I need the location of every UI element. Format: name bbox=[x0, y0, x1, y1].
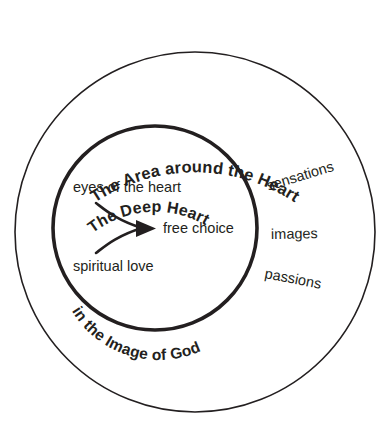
label-spiritual-love: spiritual love bbox=[73, 259, 154, 274]
diagram-svg: The Area around the Heart The Deep Heart… bbox=[0, 0, 391, 437]
label-images: images bbox=[271, 226, 318, 241]
label-free-choice: free choice bbox=[163, 221, 234, 236]
arrow-lower-tail bbox=[96, 228, 142, 253]
inner-ring-sublabel: in the Image of God bbox=[69, 303, 203, 363]
arrow-head-icon bbox=[136, 220, 156, 237]
inner-ring-sublabel-text: in the Image of God bbox=[69, 303, 203, 363]
diagram-canvas: The Area around the Heart The Deep Heart… bbox=[0, 0, 391, 437]
label-eyes-of-the-heart: eyes of the heart bbox=[73, 180, 181, 195]
